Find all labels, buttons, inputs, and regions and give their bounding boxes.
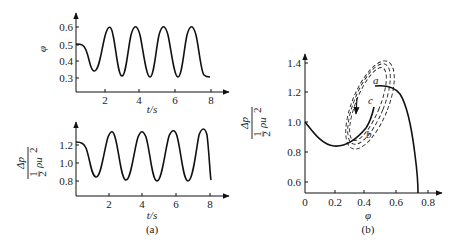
y-tick-label: 0.6	[59, 21, 73, 33]
y-label-numerator: Δp	[238, 117, 250, 130]
x-tick-label: 2	[102, 94, 108, 106]
pressure-time-curve	[76, 129, 211, 181]
y-tick-label: 0.3	[59, 72, 73, 84]
figure: 0.6 0.5 0.4 0.3 2 4 6 8 t/s φ 1.2	[0, 0, 459, 251]
y-label-frac-bottom: 2	[260, 131, 272, 137]
y-axis-label: φ	[36, 46, 48, 52]
y-label-denominator: ρu	[256, 117, 268, 129]
y-label-superscript: 2	[251, 108, 263, 114]
y-tick-label: 1.2	[59, 139, 73, 151]
x-tick-label: 0.4	[357, 196, 371, 208]
x-tick-label: 0	[302, 196, 308, 208]
panel-caption-b: (b)	[362, 223, 375, 236]
x-tick-label: 0.8	[421, 196, 435, 208]
x-axis-label: φ	[365, 209, 371, 221]
y-label-frac-bottom: 2	[36, 171, 48, 177]
x-tick-label: 4	[139, 198, 145, 210]
point-label-b: b	[366, 128, 372, 140]
x-tick-label: 0.2	[328, 196, 342, 208]
x-tick-label: 2	[106, 198, 112, 210]
y-label-denominator: ρu	[32, 157, 44, 169]
point-label-a: a	[373, 74, 379, 86]
y-tick-label: 0.5	[59, 39, 73, 51]
phi-time-curve	[76, 27, 210, 77]
x-tick-label: 0.6	[389, 196, 403, 208]
point-label-c: c	[368, 94, 373, 106]
x-axis-label: t/s	[147, 103, 157, 115]
y-tick-label: 0.4	[59, 55, 73, 67]
y-label-superscript: 2	[27, 148, 39, 154]
chart-a-bottom: 1.2 1.0 0.8 2 4 6 8 t/s (a) Δp 1 2 ρu 2	[14, 122, 229, 236]
x-tick-label: 6	[172, 94, 178, 106]
x-tick-label: 8	[208, 94, 214, 106]
y-tick-label: 0.8	[59, 175, 73, 187]
y-tick-label: 1.4	[287, 57, 301, 69]
x-tick-label: 4	[136, 94, 142, 106]
chart-b: 1.4 1.2 1.0 0.8 0.6 0 0.2 0.4 0.6 0.8 φ …	[238, 54, 442, 236]
chart-a-top: 0.6 0.5 0.4 0.3 2 4 6 8 t/s φ	[36, 13, 229, 115]
y-tick-label: 0.8	[287, 146, 301, 158]
x-axis-label: t/s	[147, 209, 157, 221]
y-tick-label: 1.0	[59, 157, 73, 169]
y-axis-label: Δp 1 2 ρu 2	[238, 107, 272, 139]
y-tick-label: 1.2	[287, 86, 301, 98]
y-axis-label: Δp 1 2 ρu 2	[14, 147, 48, 179]
x-tick-label: 6	[173, 198, 179, 210]
y-tick-label: 0.6	[287, 176, 301, 188]
y-label-numerator: Δp	[14, 157, 26, 170]
y-tick-label: 1.0	[287, 116, 301, 128]
panel-caption-a: (a)	[146, 223, 159, 236]
x-tick-label: 8	[207, 198, 213, 210]
